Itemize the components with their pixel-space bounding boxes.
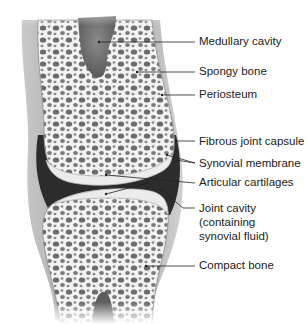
label-synovial-membrane: Synovial membrane bbox=[199, 157, 301, 170]
label-compact-bone: Compact bone bbox=[199, 259, 274, 272]
label-fibrous-joint-capsule: Fibrous joint capsule bbox=[199, 135, 304, 148]
label-periosteum: Periosteum bbox=[199, 88, 257, 101]
label-articular-cartilages: Articular cartilages bbox=[199, 176, 294, 189]
label-spongy-bone: Spongy bone bbox=[199, 65, 267, 78]
label-joint-cavity: Joint cavity bbox=[199, 202, 256, 215]
label-joint-cavity-line3: synovial fluid) bbox=[199, 230, 269, 243]
label-joint-cavity-line2: (containing bbox=[199, 216, 255, 229]
label-medullary-cavity: Medullary cavity bbox=[199, 35, 281, 48]
